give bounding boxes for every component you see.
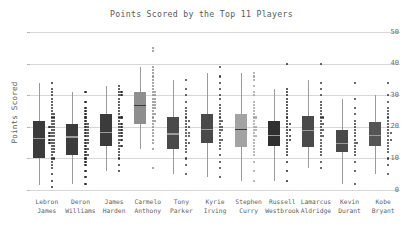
data-point <box>152 66 154 68</box>
data-point <box>87 139 89 141</box>
data-point <box>320 145 322 147</box>
data-point <box>286 180 288 182</box>
chart-title: Points Scored by the Top 11 Players <box>0 9 403 19</box>
data-point <box>219 176 221 178</box>
data-point <box>53 135 55 137</box>
data-point <box>286 91 288 93</box>
data-point <box>154 107 156 109</box>
data-point <box>118 98 120 100</box>
data-point <box>320 113 322 115</box>
data-point <box>154 94 156 96</box>
data-point <box>219 88 221 90</box>
data-point <box>219 116 221 118</box>
data-point <box>53 151 55 153</box>
data-point <box>253 72 255 74</box>
data-point <box>152 123 154 125</box>
data-point <box>48 132 50 134</box>
plot-area <box>30 26 400 190</box>
data-point <box>289 129 291 131</box>
data-point <box>120 116 122 118</box>
data-point <box>253 148 255 150</box>
data-point <box>51 154 53 156</box>
data-point <box>84 91 86 93</box>
data-point <box>253 101 255 103</box>
data-point <box>219 66 221 68</box>
data-point <box>53 145 55 147</box>
data-point <box>320 120 322 122</box>
data-point <box>219 132 221 134</box>
data-point <box>84 145 86 147</box>
box-iqr <box>66 124 78 156</box>
data-point <box>387 148 389 150</box>
data-point <box>387 120 389 122</box>
data-point <box>185 94 187 96</box>
data-point <box>152 110 154 112</box>
data-point <box>286 88 288 90</box>
data-point <box>354 170 356 172</box>
data-point <box>322 116 324 118</box>
data-point <box>188 135 190 137</box>
data-point <box>286 120 288 122</box>
data-point <box>51 104 53 106</box>
data-point <box>320 88 322 90</box>
strip-points <box>81 26 90 190</box>
box-iqr <box>33 121 45 159</box>
y-tick-mark-0 <box>27 190 30 191</box>
data-point <box>255 135 257 137</box>
data-point <box>118 113 120 115</box>
data-point <box>387 139 389 141</box>
median-line <box>100 132 112 133</box>
data-point <box>387 142 389 144</box>
y-tick-label-30: 30 <box>377 92 399 99</box>
box-iqr <box>100 114 112 146</box>
strip-points <box>216 26 225 190</box>
data-point <box>219 148 221 150</box>
data-point <box>253 139 255 141</box>
data-point <box>286 132 288 134</box>
data-point <box>118 107 120 109</box>
data-point <box>253 123 255 125</box>
data-point <box>354 154 356 156</box>
strip-points <box>149 26 158 190</box>
data-point <box>152 116 154 118</box>
strip-points <box>182 26 191 190</box>
data-point <box>322 123 324 125</box>
data-point <box>320 148 322 150</box>
data-point <box>219 113 221 115</box>
data-point <box>387 164 389 166</box>
data-point <box>320 126 322 128</box>
data-point <box>286 110 288 112</box>
data-point <box>152 135 154 137</box>
median-line <box>167 133 179 134</box>
data-point <box>152 85 154 87</box>
data-point <box>219 104 221 106</box>
data-point <box>53 113 55 115</box>
data-point <box>320 154 322 156</box>
data-point <box>185 145 187 147</box>
median-line <box>302 130 314 131</box>
data-point <box>185 164 187 166</box>
data-point <box>390 132 392 134</box>
data-point <box>387 132 389 134</box>
data-point <box>51 164 53 166</box>
data-point <box>387 145 389 147</box>
data-point <box>387 107 389 109</box>
data-point <box>219 154 221 156</box>
data-point <box>387 173 389 175</box>
data-point <box>356 142 358 144</box>
data-point <box>84 170 86 172</box>
data-point <box>152 142 154 144</box>
data-point <box>154 113 156 115</box>
data-point <box>152 132 154 134</box>
data-point <box>219 123 221 125</box>
data-point <box>387 101 389 103</box>
data-point <box>185 79 187 81</box>
data-point <box>51 91 53 93</box>
data-point <box>354 151 356 153</box>
data-point <box>118 142 120 144</box>
data-point <box>51 94 53 96</box>
y-axis-label: Points Scored <box>10 68 19 158</box>
data-point <box>289 123 291 125</box>
data-point <box>87 148 89 150</box>
data-point <box>51 180 53 182</box>
